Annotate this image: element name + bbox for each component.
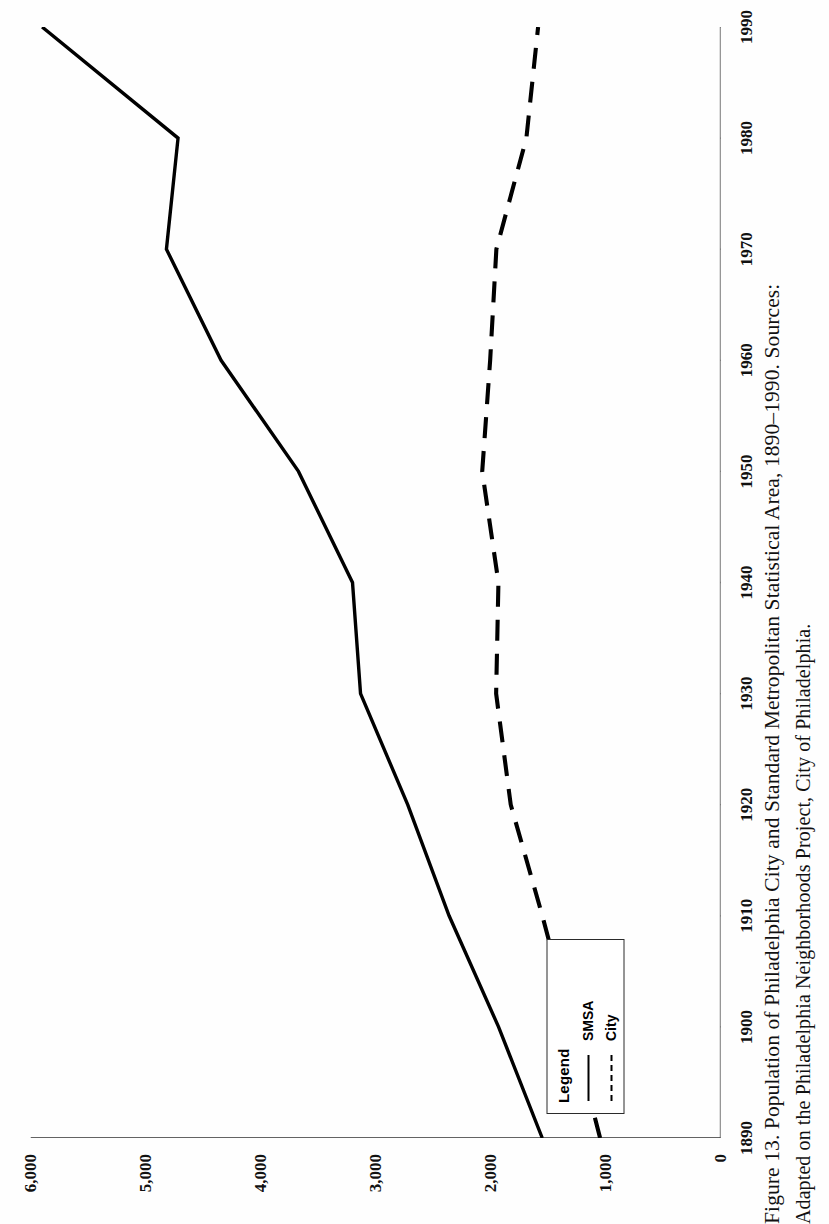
x-tick-label-1960: 1960 xyxy=(736,343,756,377)
y-tick-label-6000: 6,000 xyxy=(20,1154,40,1224)
x-tick-label-1920: 1920 xyxy=(736,788,756,822)
figure-page: 1890190019101920193019401950196019701980… xyxy=(0,0,829,1224)
y-tick-label-0: 0 xyxy=(710,1154,730,1224)
y-tick-label-3000: 3,000 xyxy=(365,1154,385,1224)
legend-item-city: City xyxy=(600,938,622,1113)
y-tick-label-4000: 4,000 xyxy=(250,1154,270,1224)
legend-title: Legend xyxy=(554,1048,571,1103)
x-tick-label-1890: 1890 xyxy=(736,1121,756,1155)
figure-caption-line-1: Figure 13. Population of Philadelphia Ci… xyxy=(756,0,787,1224)
x-tick-label-1900: 1900 xyxy=(736,1010,756,1044)
legend-swatch-smsa xyxy=(587,1055,589,1101)
x-tick-label-1930: 1930 xyxy=(736,677,756,711)
x-tick-label-1990: 1990 xyxy=(736,10,756,44)
legend-swatch-city xyxy=(610,1055,612,1101)
y-tick-label-1000: 1,000 xyxy=(595,1154,615,1224)
figure-caption: Figure 13. Population of Philadelphia Ci… xyxy=(756,0,818,1224)
rotated-figure-wrapper: 1890190019101920193019401950196019701980… xyxy=(0,0,829,1224)
x-tick-label-1910: 1910 xyxy=(736,899,756,933)
y-tick-label-2000: 2,000 xyxy=(480,1154,500,1224)
legend-item-smsa: SMSA xyxy=(577,938,599,1113)
chart-legend: Legend SMSA City xyxy=(546,939,624,1114)
series-line-smsa xyxy=(42,27,542,1138)
x-tick-label-1970: 1970 xyxy=(736,232,756,266)
figure-caption-line-2: Adapted on the Philadelphia Neighborhood… xyxy=(787,0,818,1224)
figure-body: 1890190019101920193019401950196019701980… xyxy=(0,0,829,1224)
y-tick-label-5000: 5,000 xyxy=(135,1154,155,1224)
x-tick-label-1980: 1980 xyxy=(736,121,756,155)
legend-label-city: City xyxy=(602,1015,618,1041)
legend-label-smsa: SMSA xyxy=(579,1001,595,1041)
x-tick-label-1950: 1950 xyxy=(736,454,756,488)
x-tick-label-1940: 1940 xyxy=(736,566,756,600)
